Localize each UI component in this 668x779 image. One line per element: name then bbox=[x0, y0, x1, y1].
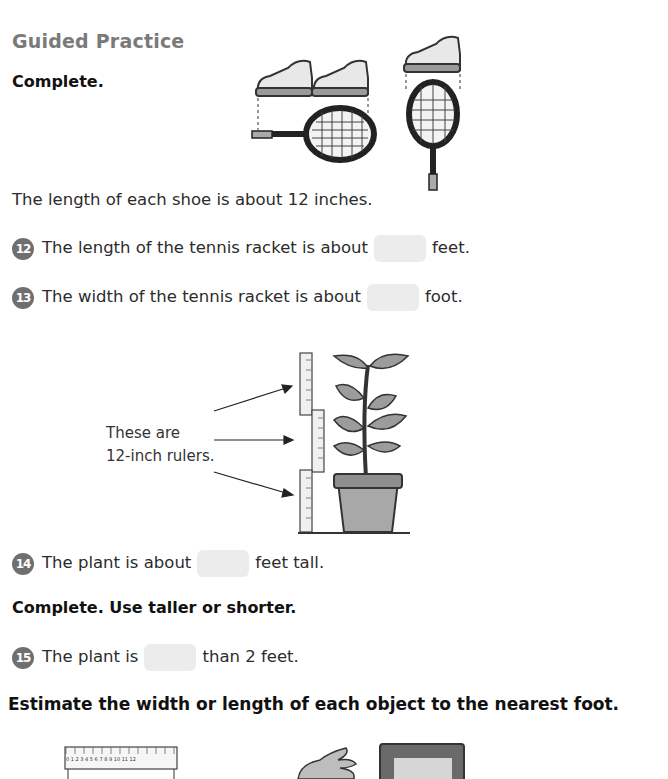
given-statement: The length of each shoe is about 12 inch… bbox=[12, 190, 373, 209]
plant-icon bbox=[334, 354, 408, 478]
section-instruction-taller-shorter: Complete. Use taller or shorter. bbox=[12, 598, 296, 617]
question-text-after: feet tall. bbox=[255, 553, 324, 572]
question-text-before: The plant is about bbox=[42, 553, 191, 572]
section-instruction-estimate: Estimate the width or length of each obj… bbox=[8, 694, 619, 714]
question-text-before: The width of the tennis racket is about bbox=[42, 287, 361, 306]
question-number-badge: 13 bbox=[12, 287, 34, 309]
arrow-icon bbox=[214, 385, 293, 497]
answer-blank-14[interactable] bbox=[197, 550, 249, 577]
hand-icon bbox=[298, 748, 356, 779]
question-text-before: The length of the tennis racket is about bbox=[42, 238, 368, 257]
question-13: 13The width of the tennis racket is abou… bbox=[12, 284, 463, 311]
section-instruction-complete: Complete. bbox=[12, 72, 104, 91]
question-number-badge: 12 bbox=[12, 238, 34, 260]
question-12: 12The length of the tennis racket is abo… bbox=[12, 235, 470, 262]
tennis-racket-icon bbox=[252, 108, 374, 160]
question-text-after: foot. bbox=[425, 287, 463, 306]
picture-frame-icon bbox=[380, 744, 464, 779]
pot-icon bbox=[334, 474, 402, 532]
question-text-before: The plant is bbox=[42, 647, 138, 666]
ruler-12-inch: 0 1 2 3 4 5 6 7 8 9 10 11 12 bbox=[64, 746, 178, 779]
hand-and-frame-illustration bbox=[290, 738, 500, 779]
svg-text:0 1 2 3 4 5 6 7 8 9 1: 0 1 2 3 4 5 6 7 8 9 10 11 12 bbox=[66, 756, 136, 762]
shoe-racket-illustration bbox=[250, 38, 470, 198]
question-15: 15The plant isthan 2 feet. bbox=[12, 644, 299, 671]
ruler-icon bbox=[300, 353, 324, 532]
caption-line-1: These are bbox=[106, 422, 215, 445]
question-number-badge: 15 bbox=[12, 647, 34, 669]
question-text-after: than 2 feet. bbox=[202, 647, 298, 666]
answer-blank-13[interactable] bbox=[367, 284, 419, 311]
shoe-icon bbox=[256, 61, 312, 96]
ruler-caption: These are 12-inch rulers. bbox=[106, 422, 215, 468]
answer-blank-15[interactable] bbox=[144, 644, 196, 671]
question-14: 14The plant is aboutfeet tall. bbox=[12, 550, 324, 577]
question-number-badge: 14 bbox=[12, 553, 34, 575]
plant-with-rulers-illustration bbox=[210, 350, 420, 540]
question-text-after: feet. bbox=[432, 238, 470, 257]
page-title: Guided Practice bbox=[12, 30, 184, 52]
answer-blank-12[interactable] bbox=[374, 235, 426, 262]
caption-line-2: 12-inch rulers. bbox=[106, 445, 215, 468]
